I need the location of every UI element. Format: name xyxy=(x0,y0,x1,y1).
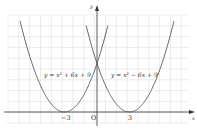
x-axis-arrow-icon xyxy=(189,110,195,114)
parabola-chart xyxy=(0,0,197,133)
x-tick-3: 3 xyxy=(128,114,132,122)
x-tick-neg3: −3 xyxy=(61,114,71,122)
series-label-right: y = x² − 6x + 9 xyxy=(111,71,158,78)
origin-label: O xyxy=(91,114,96,122)
curve-right-parabola xyxy=(86,21,174,112)
y-axis-label: y xyxy=(90,3,93,9)
series-label-left: y = x² + 6x + 9 xyxy=(44,71,91,78)
y-axis-arrow-icon xyxy=(95,5,99,11)
x-axis-label: x xyxy=(192,115,195,121)
